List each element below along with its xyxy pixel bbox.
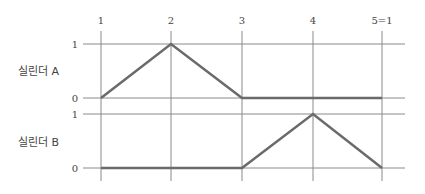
step-label: 1 — [98, 15, 104, 26]
step-label: 2 — [168, 15, 174, 26]
level-labels: 1 0 1 0 — [72, 39, 78, 174]
cylinder-a-low-label: 0 — [72, 93, 78, 104]
cylinder-b-high-label: 1 — [72, 109, 78, 120]
step-label: 3 — [239, 15, 245, 26]
cylinder-a-label: 실린더 A — [18, 65, 59, 78]
step-label: 5=1 — [371, 15, 392, 26]
cylinder-b-low-label: 0 — [72, 163, 78, 174]
cylinder-a-high-label: 1 — [72, 39, 78, 50]
step-label: 4 — [310, 15, 316, 26]
step-labels: 1 2 3 4 5=1 — [98, 15, 393, 26]
displacement-diagram: 1 2 3 4 5=1 1 0 1 0 실린더 A 실린더 B — [0, 0, 425, 194]
step-gridlines — [101, 31, 382, 181]
cylinder-b-label: 실린더 B — [18, 136, 59, 149]
